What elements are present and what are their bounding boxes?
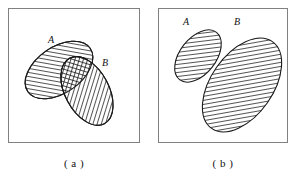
figure-root: A B A B ( a ) ( b ) [0,0,296,181]
set-label-b-B: B [234,17,240,27]
panel-b: A B [158,8,288,143]
caption-panel-a: ( a ) [8,157,140,169]
panel-a: A B [8,8,140,143]
panel-a-canvas: A B [8,8,140,143]
venn-diagram-disjoint [158,8,288,143]
venn-diagram-overlapping [8,8,140,143]
panel-b-canvas: A B [158,8,288,143]
set-label-b-A: A [183,17,189,27]
set-label-a-B: B [102,58,108,68]
set-label-a-A: A [48,35,54,45]
caption-panel-b: ( b ) [158,157,288,169]
